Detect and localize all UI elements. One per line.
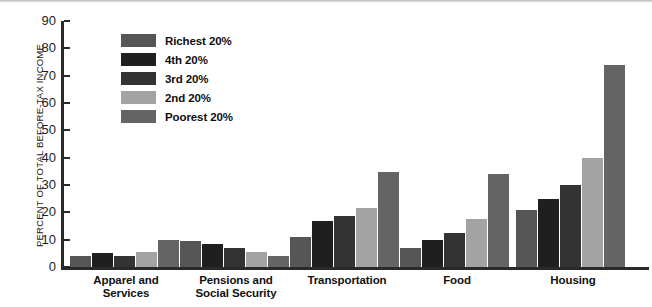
bar	[488, 174, 509, 267]
legend-item: 3rd 20%	[121, 69, 261, 88]
y-tick-label-70: 70	[2, 68, 56, 83]
y-tick-label-90: 90	[2, 13, 56, 28]
y-tick-label-0: 0	[2, 259, 56, 274]
legend-item: Richest 20%	[121, 31, 261, 50]
bar	[180, 241, 201, 267]
legend-label: 3rd 20%	[165, 73, 208, 85]
bar	[356, 208, 377, 267]
bar	[444, 233, 465, 267]
bar	[560, 185, 581, 267]
bar	[136, 252, 157, 267]
bar	[290, 237, 311, 267]
bar-group-bars	[516, 21, 626, 267]
bar	[378, 172, 399, 267]
y-tick-label-80: 80	[2, 40, 56, 55]
bar	[334, 216, 355, 267]
x-axis-label: Housing	[503, 274, 643, 287]
bar	[312, 221, 333, 267]
legend-swatch	[121, 34, 156, 47]
y-tick-label-10: 10	[2, 232, 56, 247]
bar	[92, 253, 113, 267]
bar	[268, 256, 289, 267]
legend-item: 2nd 20%	[121, 88, 261, 107]
x-axis-label-line: Social Security	[166, 287, 306, 300]
bar	[70, 256, 91, 267]
legend-swatch	[121, 110, 156, 123]
scan-edge-artifact	[0, 0, 652, 3]
legend-swatch	[121, 91, 156, 104]
legend-swatch	[121, 53, 156, 66]
bar	[224, 248, 245, 267]
bar	[604, 65, 625, 267]
bar	[516, 210, 537, 267]
bar	[246, 252, 267, 267]
legend-label: Poorest 20%	[165, 111, 233, 123]
y-tick-label-30: 30	[2, 177, 56, 192]
legend: Richest 20%4th 20%3rd 20%2nd 20%Poorest …	[121, 31, 261, 126]
legend-item: Poorest 20%	[121, 107, 261, 126]
bar	[114, 256, 135, 267]
x-axis-label-line: Housing	[503, 274, 643, 287]
bar	[400, 248, 421, 267]
y-tick-label-20: 20	[2, 204, 56, 219]
y-tick-label-50: 50	[2, 122, 56, 137]
bar-group-bars	[290, 21, 400, 267]
bar-group-bars	[400, 21, 510, 267]
legend-label: Richest 20%	[165, 35, 232, 47]
legend-item: 4th 20%	[121, 50, 261, 69]
bar	[466, 219, 487, 267]
x-axis-line	[61, 267, 649, 270]
legend-swatch	[121, 72, 156, 85]
legend-label: 2nd 20%	[165, 92, 211, 104]
bar	[202, 244, 223, 267]
y-tick-label-40: 40	[2, 150, 56, 165]
bar-chart: PERCENT OF TOTAL BEFORE-TAX INCOME 90807…	[0, 0, 652, 307]
bar	[538, 199, 559, 267]
y-tick-label-60: 60	[2, 95, 56, 110]
bar	[422, 240, 443, 267]
legend-label: 4th 20%	[165, 54, 208, 66]
bar	[582, 158, 603, 267]
bar	[158, 240, 179, 267]
